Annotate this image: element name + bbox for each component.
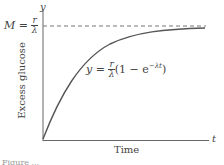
equation-denominator: λ xyxy=(109,70,115,79)
y-axis-label: Excess glucose xyxy=(16,42,27,119)
asymptote-fraction: r λ xyxy=(31,16,37,35)
equation-rest: (1 − e xyxy=(115,63,149,76)
asymptote-label: M = r λ xyxy=(4,16,38,35)
equation-close: ) xyxy=(162,63,166,76)
exponential-curve xyxy=(43,28,205,139)
x-axis-symbol: t xyxy=(212,133,216,144)
figure-caption: Figure ... xyxy=(2,158,39,165)
curve-equation: y = r λ (1 − e−λt) xyxy=(86,60,166,79)
y-axis-symbol: y xyxy=(40,1,46,12)
asymptote-lhs: M = xyxy=(4,19,28,32)
x-axis-label: Time xyxy=(114,144,139,155)
equation-exponent: −λt xyxy=(149,62,162,70)
equation-lhs: y = xyxy=(86,63,105,76)
asymptote-denominator: λ xyxy=(32,26,38,35)
